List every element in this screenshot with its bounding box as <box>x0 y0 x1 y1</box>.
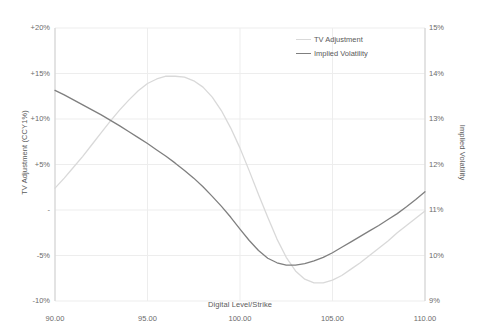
legend-swatch-icon <box>296 39 311 40</box>
legend-label: Implied Volatility <box>314 49 368 58</box>
x-tick: 100.00 <box>215 314 265 323</box>
legend-swatch-icon <box>296 53 311 54</box>
x-tick: 110.00 <box>400 314 450 323</box>
y-right-axis-title: Implied Volatility <box>458 83 467 223</box>
chart-container: +20%+15%+10%+5%--5%-10% 15%14%13%12%11%1… <box>0 0 478 328</box>
legend-item-1[interactable]: TV Adjustment <box>296 32 368 46</box>
x-tick: 95.00 <box>123 314 173 323</box>
x-tick-labels: 90.0095.00100.00105.00110.00 <box>0 0 478 328</box>
legend-label: TV Adjustment <box>314 35 363 44</box>
y-left-axis-title: TV Adjustment (CCY1%) <box>20 83 29 223</box>
legend-item-2[interactable]: Implied Volatility <box>296 46 368 60</box>
x-tick: 90.00 <box>30 314 80 323</box>
x-tick: 105.00 <box>308 314 358 323</box>
chart-legend: TV AdjustmentImplied Volatility <box>296 32 368 60</box>
x-axis-title: Digital Level/Strike <box>55 300 425 309</box>
